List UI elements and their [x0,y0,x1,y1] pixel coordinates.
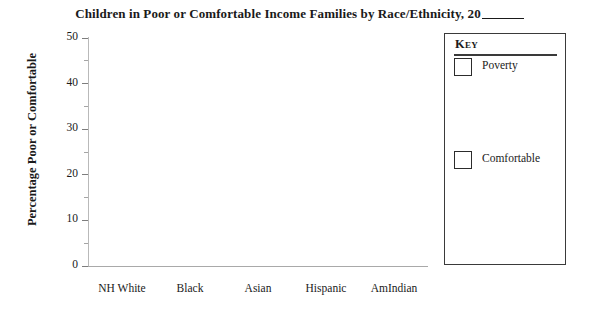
y-tick-label-10: 10 [20,212,78,224]
y-tick-label-50: 50 [20,30,78,42]
legend-label-comfortable: Comfortable [482,152,540,164]
title-year-blank [482,7,524,19]
y-tick-minor-15 [84,197,88,198]
legend-title-rule [454,54,557,56]
chart-title-text: Children in Poor or Comfortable Income F… [75,6,481,21]
plot-area [88,38,427,266]
legend-title: Key [455,37,478,52]
chart-title: Children in Poor or Comfortable Income F… [0,6,599,22]
legend-label-poverty: Poverty [482,59,518,71]
y-tick-major-20 [82,174,88,175]
y-tick-minor-35 [84,106,88,107]
y-tick-minor-5 [84,243,88,244]
x-axis-line [88,266,428,267]
y-tick-minor-25 [84,152,88,153]
x-axis-label-hispanic: Hispanic [292,282,360,294]
y-tick-major-0 [82,266,88,267]
legend-box: Key Poverty Comfortable [444,33,566,265]
x-axis-category-labels: NH WhiteBlackAsianHispanicAmIndian [88,282,428,298]
y-tick-label-30: 30 [20,121,78,133]
y-axis-tick-labels: 01020304050 [20,0,78,314]
y-tick-major-10 [82,220,88,221]
y-tick-label-20: 20 [20,167,78,179]
y-tick-major-40 [82,83,88,84]
x-axis-label-asian: Asian [224,282,292,294]
x-axis-label-nh-white: NH White [88,282,156,294]
legend-swatch-poverty [454,58,472,76]
x-axis-label-black: Black [156,282,224,294]
y-tick-major-50 [82,38,88,39]
y-tick-major-30 [82,129,88,130]
y-tick-label-40: 40 [20,76,78,88]
legend-swatch-comfortable [454,151,472,169]
x-axis-label-amindian: AmIndian [360,282,428,294]
y-tick-minor-45 [84,60,88,61]
y-tick-label-0: 0 [20,258,78,270]
